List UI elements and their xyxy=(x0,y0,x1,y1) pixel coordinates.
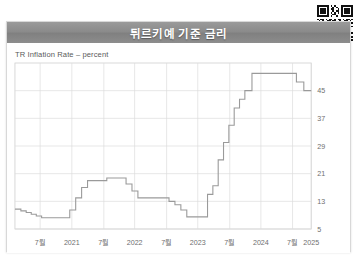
y-axis-tick-label: 37 xyxy=(317,115,325,123)
x-axis-tick-label: 2024 xyxy=(253,239,269,247)
y-axis-tick-label: 45 xyxy=(317,87,325,95)
x-axis-tick-label: 7월 xyxy=(287,238,298,247)
x-axis-tick-label: 2022 xyxy=(127,239,143,247)
screenshot-root: 튀르키예 기준 금리 TR Inflation Rate – percent 5… xyxy=(0,0,363,258)
y-axis-tick-label: 5 xyxy=(317,226,321,234)
y-axis-tick-label: 13 xyxy=(317,198,325,206)
x-axis-tick-label: 7월 xyxy=(98,238,109,247)
x-axis-tick-label: 7월 xyxy=(35,238,46,247)
card-title-bar: 튀르키예 기준 금리 xyxy=(7,22,350,43)
chart-panel: TR Inflation Rate – percent 513212937457… xyxy=(7,43,350,253)
x-axis-tick-label: 7월 xyxy=(224,238,235,247)
x-axis-tick-label: 7월 xyxy=(161,238,172,247)
x-axis-tick-label: 2021 xyxy=(64,239,80,247)
chart-card: 튀르키예 기준 금리 TR Inflation Rate – percent 5… xyxy=(6,21,351,252)
x-axis-tick-label: 2023 xyxy=(190,239,206,247)
x-axis-tick-label: 2025 xyxy=(303,239,319,247)
line-chart: 513212937457월20217월20227월20237월20247월202… xyxy=(7,43,350,253)
y-axis-tick-label: 29 xyxy=(317,143,325,151)
page-title: 튀르키예 기준 금리 xyxy=(130,25,227,41)
y-axis-tick-label: 21 xyxy=(317,170,325,178)
